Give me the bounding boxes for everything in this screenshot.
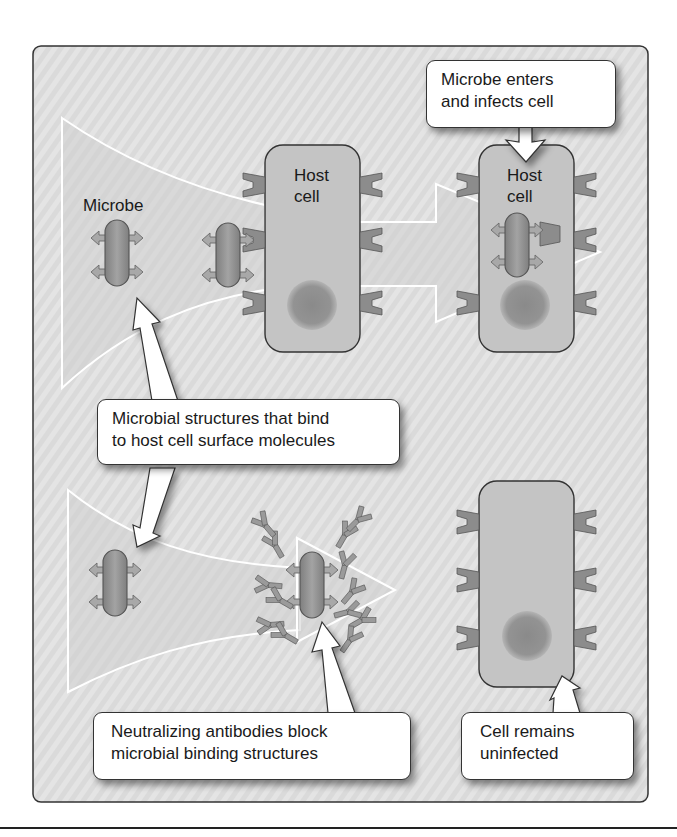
nucleus <box>500 280 550 330</box>
nucleus <box>502 611 552 661</box>
host-cell-2-label: Host cell <box>507 165 542 207</box>
callout-line: and infects cell <box>441 91 601 113</box>
host-cell-1-label: Host cell <box>294 165 329 207</box>
callout-line: microbial binding structures <box>111 743 396 765</box>
callout-microbe-enters: Microbe enters and infects cell <box>426 60 616 128</box>
callout-neutralizing-antibodies: Neutralizing antibodies block microbial … <box>93 712 411 780</box>
callout-line: Microbe enters <box>441 69 601 91</box>
callout-cell-uninfected: Cell remains uninfected <box>461 712 634 780</box>
microbe-internalized <box>505 213 529 277</box>
nucleus <box>287 280 337 330</box>
host-cell-2-label-line1: Host <box>507 165 542 186</box>
callout-binding-structures: Microbial structures that bind to host c… <box>97 399 400 465</box>
callout-line: to host cell surface molecules <box>112 430 385 452</box>
callout-line: Microbial structures that bind <box>112 408 385 430</box>
callout-line: uninfected <box>480 743 619 765</box>
microbe-label: Microbe <box>83 195 143 216</box>
callout-line: Cell remains <box>480 721 619 743</box>
host-cell-1-label-line1: Host <box>294 165 329 186</box>
host-cell-2-label-line2: cell <box>507 186 542 207</box>
callout-line: Neutralizing antibodies block <box>111 721 396 743</box>
bottom-rule <box>0 827 677 829</box>
host-cell-1-label-line2: cell <box>294 186 329 207</box>
neutralization-diagram: Microbe Host cell Host cell Microbe ente… <box>0 0 677 837</box>
